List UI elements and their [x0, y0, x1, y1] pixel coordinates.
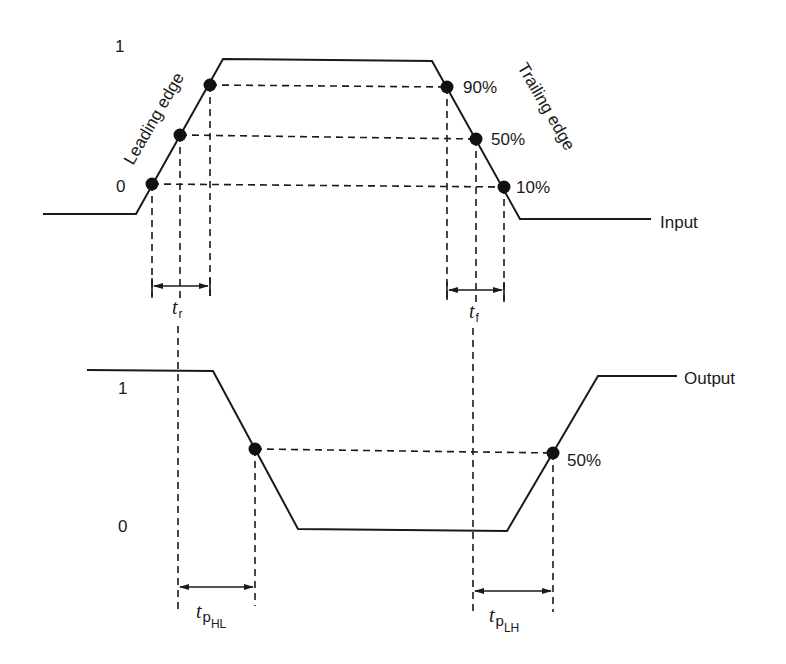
input-level-guides	[152, 85, 504, 187]
dot-output-fall-50	[249, 443, 262, 456]
output-percent-50-label: 50%	[567, 451, 601, 470]
percent-90-label: 90%	[463, 78, 497, 97]
fall-time-label: tf	[469, 300, 480, 325]
rise-time-marker	[152, 278, 210, 296]
timing-diagram: 1 0 Leading edge Trailing edge 90% 50% 1…	[0, 0, 786, 664]
dot-output-rise-50	[547, 447, 560, 460]
output-level-low-label: 0	[118, 517, 127, 536]
leading-edge-label: Leading edge	[120, 69, 188, 168]
dot-trailing-10	[498, 181, 511, 194]
rise-time-label: tr	[172, 296, 183, 321]
output-50-guide	[255, 449, 553, 453]
dot-leading-50	[174, 129, 187, 142]
output-level-high-label: 1	[118, 379, 127, 398]
output-label: Output	[684, 369, 735, 388]
dot-trailing-50	[470, 133, 483, 146]
propagation-guides	[178, 326, 553, 616]
prop-delay-hl-label: tpHL	[196, 600, 227, 631]
input-edge-guides	[152, 85, 504, 302]
prop-delay-lh-label: tpLH	[489, 604, 519, 635]
percent-50-label: 50%	[491, 130, 525, 149]
input-label: Input	[660, 213, 698, 232]
dot-trailing-90	[441, 81, 454, 94]
input-measure-points	[146, 79, 511, 194]
dot-leading-10	[146, 178, 159, 191]
percent-10-label: 10%	[516, 178, 550, 197]
input-level-low-label: 0	[116, 177, 125, 196]
dot-leading-90	[204, 79, 217, 92]
input-level-high-label: 1	[115, 37, 124, 56]
